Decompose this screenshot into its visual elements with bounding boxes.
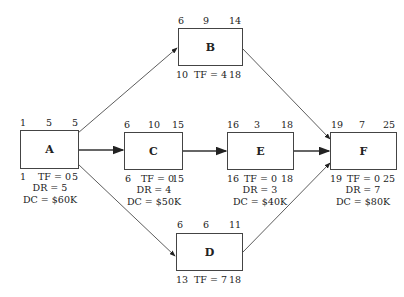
node-f-lf: 25 xyxy=(383,173,395,184)
node-a-tf: TF = 0 xyxy=(38,171,71,182)
node-d-ef: 11 xyxy=(229,219,241,230)
node-b-tf: TF = 4 xyxy=(194,69,227,80)
node-c-dc: DC = $50K xyxy=(122,196,186,208)
node-e-es: 16 xyxy=(227,119,239,130)
node-a-label: A xyxy=(45,143,54,156)
node-e-ef: 18 xyxy=(281,119,293,130)
node-b-es: 6 xyxy=(178,15,184,26)
node-c-lf: 15 xyxy=(172,173,184,184)
node-d-lf: 18 xyxy=(229,274,241,285)
node-e-tf: TF = 0 xyxy=(244,173,277,184)
node-b-duration: 9 xyxy=(203,15,209,26)
node-a-duration: 5 xyxy=(46,117,52,128)
node-f-dc: DC = $80K xyxy=(331,196,395,208)
node-e-dc: DC = $40K xyxy=(228,196,292,208)
node-e-lf: 18 xyxy=(281,173,293,184)
node-f[interactable]: F xyxy=(330,132,397,170)
node-e-dr: DR = 3 xyxy=(234,184,286,196)
node-d-label: D xyxy=(205,246,215,259)
node-b-ls: 10 xyxy=(176,69,188,80)
node-e-label: E xyxy=(256,145,264,158)
node-d-ls: 13 xyxy=(176,274,188,285)
node-f-dr: DR = 7 xyxy=(337,184,389,196)
node-c[interactable]: C xyxy=(124,132,183,170)
node-f-tf: TF = 0 xyxy=(347,173,380,184)
node-b[interactable]: B xyxy=(178,28,243,66)
node-b-ef: 14 xyxy=(229,15,241,26)
node-e-duration: 3 xyxy=(254,119,260,130)
node-f-ls: 19 xyxy=(330,173,342,184)
node-f-es: 19 xyxy=(331,119,343,130)
node-c-es: 6 xyxy=(124,119,130,130)
node-a-dc: DC = $60K xyxy=(18,194,82,206)
node-e-ls: 16 xyxy=(227,173,239,184)
node-c-ls: 6 xyxy=(125,173,131,184)
node-c-label: C xyxy=(149,145,158,158)
node-b-label: B xyxy=(206,41,215,54)
node-a-ls: 1 xyxy=(20,171,26,182)
node-c-duration: 10 xyxy=(148,119,160,130)
node-c-ef: 15 xyxy=(172,119,184,130)
node-a-es: 1 xyxy=(20,117,26,128)
node-e[interactable]: E xyxy=(227,132,294,170)
node-f-duration: 7 xyxy=(359,119,365,130)
node-a-lf: 5 xyxy=(72,171,78,182)
node-d-tf: TF = 7 xyxy=(194,274,227,285)
node-a-ef: 5 xyxy=(72,117,78,128)
node-b-lf: 18 xyxy=(229,69,241,80)
node-d-duration: 6 xyxy=(203,219,209,230)
node-c-tf: TF = 0 xyxy=(141,173,174,184)
node-c-dr: DR = 4 xyxy=(128,184,180,196)
node-d-es: 6 xyxy=(177,219,183,230)
node-a[interactable]: A xyxy=(20,130,79,169)
node-a-dr: DR = 5 xyxy=(24,182,76,194)
node-f-label: F xyxy=(360,145,368,158)
node-f-ef: 25 xyxy=(383,119,395,130)
node-d[interactable]: D xyxy=(176,233,243,271)
